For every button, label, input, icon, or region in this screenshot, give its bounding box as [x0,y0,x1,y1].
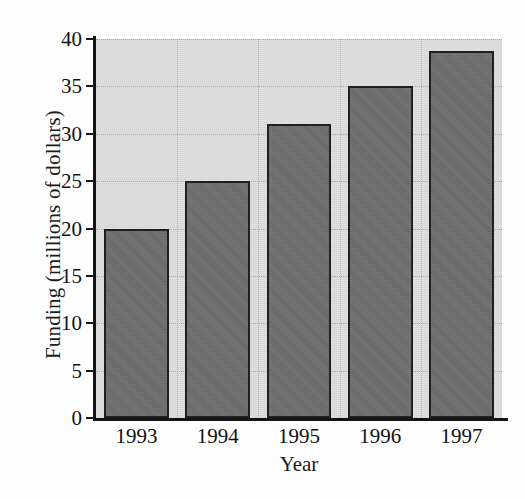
y-tick-label-35: 35 [38,74,82,99]
x-tick-label-1997: 1997 [440,424,482,449]
bar-chart-figure: Funding (millions of dollars) 0510152025… [0,0,525,499]
y-tick-label-15: 15 [38,263,82,288]
y-tick-mark-15 [86,275,94,277]
bar-1997 [429,51,494,418]
bar-1993 [104,229,169,419]
y-tick-mark-30 [86,133,94,135]
y-tick-mark-0 [86,417,94,419]
y-tick-label-5: 5 [38,358,82,383]
x-tick-label-1993: 1993 [116,424,158,449]
x-tick-label-1994: 1994 [197,424,239,449]
y-tick-label-20: 20 [38,216,82,241]
y-tick-label-25: 25 [38,169,82,194]
x-tick-label-1995: 1995 [278,424,320,449]
x-tick-label-1996: 1996 [359,424,401,449]
bar-1994 [185,181,250,418]
gridline-x-2 [258,39,259,418]
bar-1996 [348,86,413,418]
y-tick-label-30: 30 [38,121,82,146]
plot-area [96,39,502,418]
y-tick-mark-10 [86,322,94,324]
y-tick-label-0: 0 [38,406,82,431]
gridline-x-3 [340,39,341,418]
x-axis-line [93,418,508,421]
y-tick-mark-20 [86,228,94,230]
gridline-x-4 [421,39,422,418]
y-tick-label-10: 10 [38,311,82,336]
y-tick-mark-25 [86,180,94,182]
y-tick-mark-40 [86,38,94,40]
y-tick-mark-35 [86,85,94,87]
gridline-y-40 [96,39,502,40]
bar-1995 [267,124,332,418]
x-axis-title: Year [95,452,503,477]
gridline-x-1 [177,39,178,418]
y-tick-mark-5 [86,370,94,372]
y-tick-label-40: 40 [38,27,82,52]
